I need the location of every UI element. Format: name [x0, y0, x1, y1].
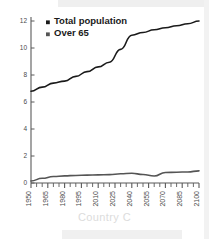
- x-axis-tick-label: 2040: [126, 191, 133, 207]
- legend-label-1: Over 65: [54, 27, 90, 38]
- x-axis-tick-label: 2055: [143, 191, 150, 207]
- x-axis-tick-label: 1995: [75, 191, 82, 207]
- x-axis-tick-label: 2010: [92, 191, 99, 207]
- line-chart: 024681012 195019651980199520102025204020…: [0, 0, 209, 239]
- chart-caption: Country C: [0, 211, 209, 223]
- y-axis-tick-label: 2: [23, 152, 27, 159]
- x-axis-tick-label: 2085: [176, 191, 183, 207]
- x-axis-tick-label: 2100: [193, 191, 200, 207]
- figure-container: 024681012 195019651980199520102025204020…: [0, 0, 209, 239]
- x-axis-tick-label: 2025: [109, 191, 116, 207]
- y-axis-tick-label: 8: [23, 71, 27, 78]
- x-axis: 1950196519801995201020252040205520702085…: [25, 183, 200, 207]
- y-axis: 024681012: [20, 17, 35, 186]
- y-axis-tick-label: 10: [20, 44, 28, 51]
- chart-legend: Total populationOver 65: [46, 15, 127, 38]
- x-axis-tick-label: 2070: [159, 191, 166, 207]
- y-axis-tick-label: 6: [23, 98, 27, 105]
- legend-label-0: Total population: [54, 15, 127, 26]
- legend-square-marker-1: [46, 32, 50, 36]
- x-axis-tick-label: 1980: [59, 191, 66, 207]
- data-series-group: [31, 21, 199, 181]
- y-axis-tick-label: 4: [23, 125, 27, 132]
- x-axis-tick-label: 1965: [42, 191, 49, 207]
- y-axis-tick-label: 12: [20, 17, 28, 24]
- x-axis-tick-label: 1950: [25, 191, 32, 207]
- series-line-over-65: [31, 171, 199, 181]
- legend-square-marker-0: [46, 20, 50, 24]
- y-axis-tick-label: 0: [23, 179, 27, 186]
